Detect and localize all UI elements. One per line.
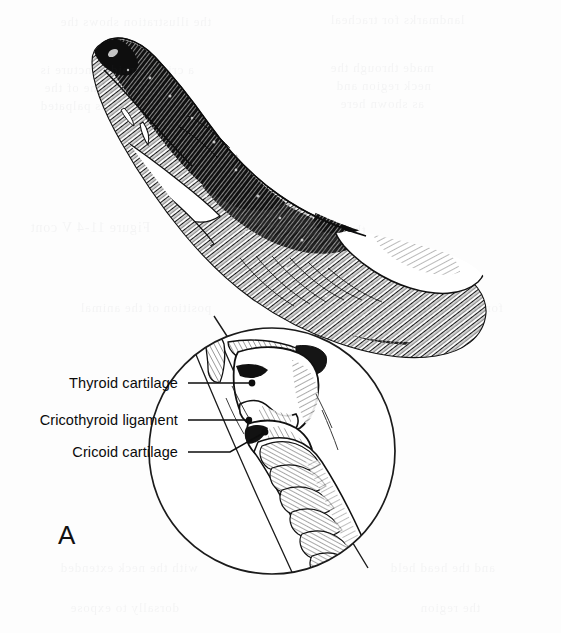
lower-canine-tooth bbox=[94, 148, 116, 168]
panel-letter-a: A bbox=[58, 520, 76, 550]
eye-highlight bbox=[243, 151, 252, 154]
lower-incisor-teeth bbox=[70, 156, 94, 167]
label-cricoid-cartilage: Cricoid cartilage bbox=[72, 444, 178, 460]
figure-canvas: Thyroid cartilage Cricothyroid ligament … bbox=[0, 0, 561, 633]
label-thyroid-cartilage: Thyroid cartilage bbox=[69, 375, 178, 391]
ear-base-shading bbox=[314, 203, 366, 233]
label-cricothyroid-ligament: Cricothyroid ligament bbox=[40, 412, 178, 428]
eye bbox=[236, 148, 259, 159]
leader-dot-cricothyroid-ligament bbox=[246, 417, 252, 423]
leader-dot-thyroid-cartilage bbox=[249, 380, 256, 387]
anatomical-figure: the illustration shows thelandmarks for … bbox=[0, 0, 561, 633]
laryngeal-inset bbox=[149, 326, 402, 612]
leader-dot-cricoid-cartilage bbox=[262, 429, 269, 436]
